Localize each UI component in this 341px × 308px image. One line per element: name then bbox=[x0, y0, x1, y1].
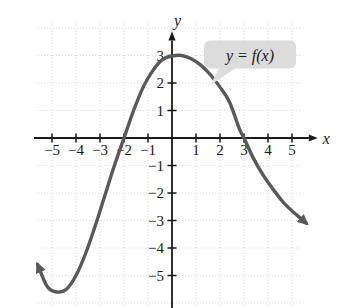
x-tick-label: 2 bbox=[216, 142, 224, 158]
y-axis-arrowhead bbox=[168, 31, 175, 40]
graph-canvas: −5−4−3−2−112345321−1−2−3−4−5xyy = f(x) bbox=[0, 0, 341, 308]
curve-label-text: y = f(x) bbox=[224, 47, 274, 65]
y-axis-label: y bbox=[172, 12, 182, 30]
x-axis-label: x bbox=[322, 130, 330, 147]
x-tick-label: 5 bbox=[288, 142, 296, 158]
axes bbox=[34, 31, 318, 308]
y-tick-label: 1 bbox=[157, 103, 165, 119]
x-tick-label: −3 bbox=[92, 142, 108, 158]
y-tick-label: −5 bbox=[148, 268, 164, 284]
y-tick-label: −2 bbox=[148, 185, 164, 201]
y-tick-label: 2 bbox=[157, 75, 165, 91]
x-tick-label: 1 bbox=[192, 142, 200, 158]
y-tick-label: −3 bbox=[148, 213, 164, 229]
function-graph-figure: −5−4−3−2−112345321−1−2−3−4−5xyy = f(x) bbox=[0, 0, 341, 308]
y-tick-label: −4 bbox=[148, 240, 164, 256]
x-tick-label: −4 bbox=[68, 142, 84, 158]
x-tick-label: 4 bbox=[264, 142, 272, 158]
x-tick-label: −1 bbox=[140, 142, 156, 158]
x-tick-label: −5 bbox=[44, 142, 60, 158]
curve-label-callout: y = f(x) bbox=[204, 41, 296, 86]
x-axis-arrowhead bbox=[309, 134, 318, 141]
y-tick-label: −1 bbox=[148, 158, 164, 174]
